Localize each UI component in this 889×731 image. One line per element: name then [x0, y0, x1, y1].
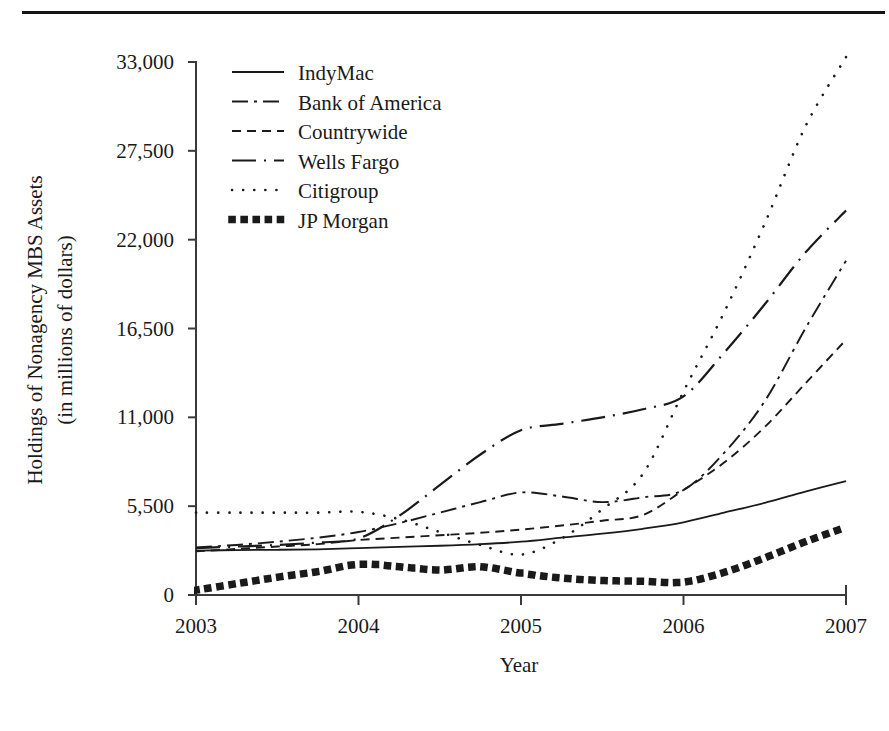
y-axis-title-line2: (in millions of dollars) [53, 235, 77, 425]
y-tick-label: 16,500 [116, 317, 174, 341]
x-tick-marks [196, 595, 846, 605]
y-tick-label: 22,000 [116, 228, 174, 252]
legend-label-countrywide: Countrywide [298, 120, 408, 144]
x-axis-line [196, 585, 846, 595]
legend-label-indymac: IndyMac [298, 61, 374, 85]
y-tick-label: 11,000 [117, 405, 174, 429]
x-tick-label: 2003 [175, 614, 217, 638]
series-line-bank-of-america [196, 261, 846, 548]
y-tick-marks [188, 62, 196, 595]
axes-group [188, 62, 846, 605]
x-tick-label: 2007 [825, 614, 867, 638]
x-axis-title: Year [500, 653, 539, 677]
legend-label-bank-of-america: Bank of America [298, 91, 442, 115]
data-series-group [196, 57, 846, 590]
series-line-citigroup [196, 57, 846, 555]
series-line-countrywide [196, 340, 846, 552]
y-axis-tick-labels: 05,50011,00016,50022,00027,50033,000 [116, 50, 174, 607]
y-tick-label: 33,000 [116, 50, 174, 74]
figure-container: 05,50011,00016,50022,00027,50033,000 200… [0, 0, 889, 731]
line-chart: 05,50011,00016,50022,00027,50033,000 200… [0, 0, 889, 731]
x-tick-label: 2006 [663, 614, 705, 638]
x-tick-label: 2005 [500, 614, 542, 638]
legend-label-wells-fargo: Wells Fargo [298, 150, 399, 174]
legend-label-jp-morgan: JP Morgan [298, 209, 389, 233]
chart-legend: IndyMacBank of AmericaCountrywideWells F… [232, 61, 442, 233]
y-tick-label: 5,500 [127, 494, 174, 518]
y-tick-label: 0 [164, 583, 175, 607]
y-tick-label: 27,500 [116, 139, 174, 163]
series-line-jp-morgan [196, 527, 846, 590]
y-axis-title-line1: Holdings of Nonagency MBS Assets [23, 175, 47, 484]
x-tick-label: 2004 [338, 614, 381, 638]
x-axis-tick-labels: 20032004200520062007 [175, 614, 867, 638]
series-line-wells-fargo [196, 211, 846, 549]
legend-label-citigroup: Citigroup [298, 179, 379, 203]
